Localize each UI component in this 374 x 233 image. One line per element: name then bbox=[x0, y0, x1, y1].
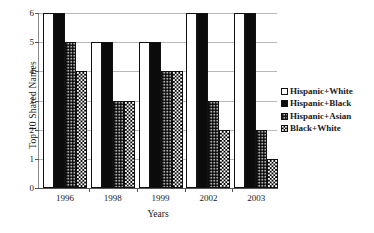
y-tick-mark bbox=[35, 13, 39, 14]
bar bbox=[186, 13, 197, 188]
y-tick-mark bbox=[35, 188, 39, 189]
legend-label: Hispanic+Black bbox=[290, 99, 351, 108]
bar bbox=[102, 42, 113, 188]
legend-swatch-icon bbox=[281, 125, 288, 132]
y-tick-mark bbox=[35, 42, 39, 43]
legend-label: Black+White bbox=[290, 124, 341, 133]
legend-label: Hispanic+White bbox=[290, 87, 353, 96]
y-tick-label: 5 bbox=[30, 38, 35, 47]
bar bbox=[161, 71, 172, 188]
bar bbox=[150, 42, 161, 188]
x-tick-mark bbox=[185, 188, 186, 192]
bar bbox=[124, 101, 135, 189]
bar bbox=[76, 71, 87, 188]
bar bbox=[65, 42, 76, 188]
bar bbox=[208, 101, 219, 189]
y-tick-mark bbox=[35, 130, 39, 131]
y-tick-mark bbox=[35, 71, 39, 72]
bar bbox=[234, 13, 245, 188]
legend-swatch-icon bbox=[281, 100, 288, 107]
y-tick-label: 4 bbox=[30, 67, 35, 76]
x-tick-mark bbox=[89, 188, 90, 192]
chart-legend: Hispanic+WhiteHispanic+BlackHispanic+Asi… bbox=[281, 85, 353, 135]
x-tick-mark bbox=[137, 188, 138, 192]
x-tick-label: 1998 bbox=[104, 193, 122, 203]
bar-group bbox=[186, 13, 230, 188]
legend-item: Hispanic+White bbox=[281, 85, 353, 97]
bar bbox=[43, 13, 54, 188]
y-tick-mark bbox=[35, 101, 39, 102]
x-tick-label: 2003 bbox=[247, 193, 265, 203]
y-tick-label: 2 bbox=[30, 125, 35, 134]
x-tick-label: 1996 bbox=[56, 193, 74, 203]
bar-group bbox=[43, 13, 87, 188]
bar bbox=[197, 13, 208, 188]
bar-group bbox=[91, 13, 135, 188]
bar bbox=[113, 101, 124, 189]
bar bbox=[91, 42, 102, 188]
x-axis-title: Years bbox=[38, 209, 278, 219]
bar bbox=[245, 13, 256, 188]
y-tick-label: 0 bbox=[30, 184, 35, 193]
y-tick-mark bbox=[35, 159, 39, 160]
bar-chart: Top 10 Shared Names 0123456 199619981999… bbox=[0, 0, 374, 233]
bar bbox=[219, 130, 230, 188]
bar-group bbox=[139, 13, 183, 188]
bar bbox=[139, 42, 150, 188]
x-tick-label: 2002 bbox=[199, 193, 217, 203]
x-tick-label: 1999 bbox=[152, 193, 170, 203]
y-tick-label: 6 bbox=[30, 9, 35, 18]
plot-area: 0123456 bbox=[38, 13, 277, 188]
legend-item: Hispanic+Black bbox=[281, 98, 353, 110]
legend-swatch-icon bbox=[281, 113, 288, 120]
bar bbox=[267, 159, 278, 188]
legend-swatch-icon bbox=[281, 88, 288, 95]
bar bbox=[256, 130, 267, 188]
legend-item: Black+White bbox=[281, 123, 353, 135]
legend-item: Hispanic+Asian bbox=[281, 110, 353, 122]
bar bbox=[54, 13, 65, 188]
bar bbox=[172, 71, 183, 188]
x-axis-line bbox=[38, 188, 278, 189]
bar-group bbox=[234, 13, 278, 188]
legend-label: Hispanic+Asian bbox=[290, 112, 351, 121]
x-tick-mark bbox=[232, 188, 233, 192]
y-tick-label: 3 bbox=[30, 96, 35, 105]
y-tick-label: 1 bbox=[30, 154, 35, 163]
